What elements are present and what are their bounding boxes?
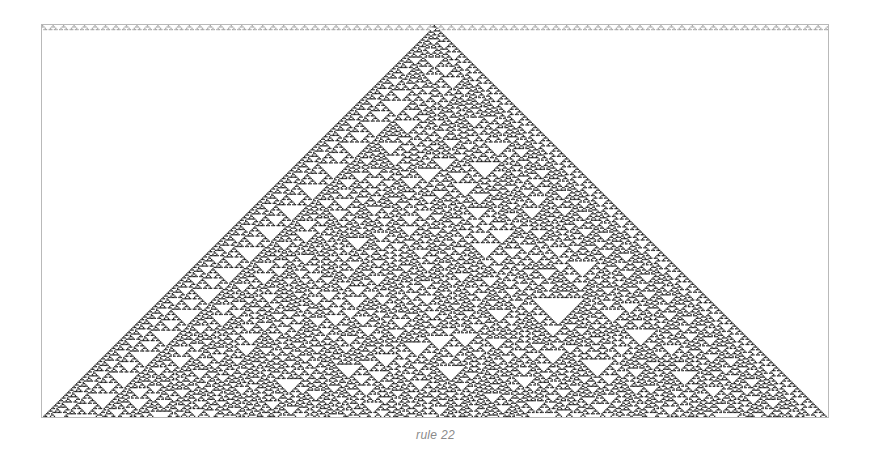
figure-root: rule 22 [0,0,871,458]
cellular-automaton-canvas [42,25,828,417]
cellular-automaton-frame [41,24,829,418]
figure-caption: rule 22 [0,428,871,442]
